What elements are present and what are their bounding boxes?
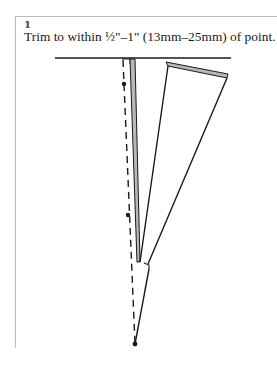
dart-dot-middle — [126, 213, 130, 217]
dart-fold-edge — [130, 59, 140, 262]
dart-illustration — [0, 0, 277, 373]
trimmed-flap — [140, 66, 227, 264]
flap-top-band — [166, 62, 228, 78]
dart-dot-top — [122, 82, 126, 86]
stitch-line-to-point — [135, 269, 149, 344]
